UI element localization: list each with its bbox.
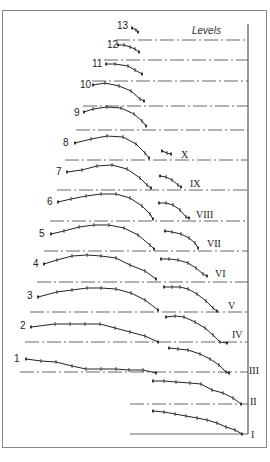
curve: III — [168, 346, 259, 376]
level-lines — [20, 40, 248, 434]
level-label: VIII — [196, 209, 213, 220]
curve-end-dot — [145, 125, 147, 127]
curve-start-dot — [83, 111, 85, 113]
curve-end-dot — [143, 100, 145, 102]
curve-path — [164, 287, 217, 311]
curve-start-dot — [43, 263, 45, 265]
curve-label: 3 — [27, 290, 33, 301]
curve-start-dot — [158, 202, 160, 204]
curve-start-dot — [163, 286, 165, 288]
curve: V — [163, 285, 236, 313]
curve-end-dot — [155, 372, 157, 374]
right-curves: IIIIIIIVVVIVIIVIIIIXX — [152, 149, 259, 440]
level-label: IX — [190, 178, 201, 189]
curve: I — [152, 409, 254, 440]
curve-label: 11 — [92, 58, 103, 69]
curve-path — [153, 381, 241, 404]
levels-diagram: Levels 12345678910111213 IIIIIIIVVVIVIIV… — [0, 0, 270, 462]
curve-end-dot — [141, 73, 143, 75]
curve: 8 — [63, 134, 150, 160]
curve-end-dot — [150, 187, 152, 189]
curve-end-dot — [153, 248, 155, 250]
curve-path — [67, 165, 151, 188]
curve-start-dot — [152, 380, 154, 382]
curve-start-dot — [30, 326, 32, 328]
curve-label: 10 — [80, 79, 92, 90]
curve-path — [169, 348, 229, 373]
curve-path — [58, 194, 153, 219]
curve-path — [93, 83, 144, 101]
curve: X — [161, 149, 189, 160]
curve: 11 — [92, 58, 143, 76]
curve: VI — [160, 257, 226, 279]
curve-end-dot — [226, 342, 228, 344]
curve-label: 8 — [63, 137, 69, 148]
curve-label: 7 — [56, 166, 62, 177]
curve-start-dot — [105, 63, 107, 65]
curve-start-dot — [131, 27, 133, 29]
curve-end-dot — [180, 186, 182, 188]
curve-label: 4 — [33, 258, 39, 269]
curve-label: 6 — [47, 196, 53, 207]
curve: IV — [165, 314, 243, 345]
left-curves: 12345678910111213 — [14, 20, 159, 375]
curve-path — [26, 359, 156, 373]
curve: 12 — [107, 39, 140, 54]
curve-label: 12 — [107, 39, 119, 50]
curve-end-dot — [157, 341, 159, 343]
curve-end-dot — [241, 433, 243, 435]
curve-path — [75, 136, 149, 158]
curve-end-dot — [197, 247, 199, 249]
level-label: VI — [215, 268, 226, 279]
curve-start-dot — [50, 233, 52, 235]
curve-end-dot — [148, 157, 150, 159]
curve-start-dot — [159, 175, 161, 177]
curve-start-dot — [25, 358, 27, 360]
curve: 2 — [20, 320, 159, 344]
curve-end-dot — [188, 217, 190, 219]
curve-path — [44, 255, 156, 279]
curve-path — [153, 411, 242, 434]
curve: 6 — [47, 192, 154, 221]
curve: 5 — [39, 223, 155, 251]
curve-end-dot — [240, 403, 242, 405]
curve-label: 5 — [39, 228, 45, 239]
curve-end-dot — [138, 51, 140, 53]
level-label: II — [250, 396, 257, 407]
legend-title: Levels — [192, 25, 221, 36]
curve: IX — [159, 174, 201, 189]
curve: 10 — [80, 79, 145, 103]
curve-path — [118, 45, 139, 52]
curve-start-dot — [165, 316, 167, 318]
level-label: III — [249, 365, 259, 376]
curve-label: 13 — [117, 20, 129, 31]
curve-path — [159, 203, 189, 218]
curve-start-dot — [161, 150, 163, 152]
curve-label: 2 — [20, 320, 26, 331]
curve: 13 — [117, 20, 139, 34]
curve-path — [161, 259, 207, 276]
curve-start-dot — [74, 142, 76, 144]
level-label: I — [251, 429, 254, 440]
curve-start-dot — [66, 171, 68, 173]
curve: VIII — [158, 201, 213, 220]
curve: 3 — [27, 286, 159, 312]
level-label: IV — [232, 329, 243, 340]
curve-path — [31, 324, 158, 342]
curve-start-dot — [164, 230, 166, 232]
curve-end-dot — [216, 310, 218, 312]
curve-label: 1 — [14, 353, 20, 364]
curve: VII — [164, 229, 221, 250]
curve-end-dot — [155, 278, 157, 280]
curve-path — [51, 225, 154, 249]
level-label: X — [181, 149, 189, 160]
curve-path — [162, 151, 171, 154]
curve-path — [38, 288, 158, 310]
curve-end-dot — [206, 275, 208, 277]
level-label: VII — [207, 238, 221, 249]
curve-end-dot — [157, 309, 159, 311]
curve: 9 — [74, 105, 147, 128]
curve-start-dot — [37, 296, 39, 298]
curve-end-dot — [152, 218, 154, 220]
level-label: V — [228, 300, 236, 311]
